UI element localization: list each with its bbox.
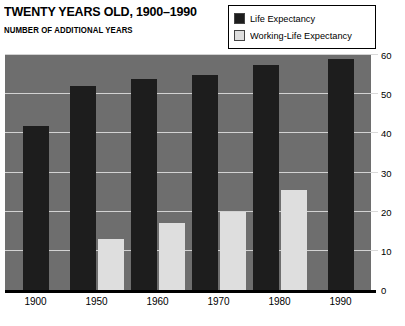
y-axis-tick — [371, 172, 378, 173]
title-block: TWENTY YEARS OLD, 1900–1990 NUMBER OF AD… — [4, 4, 205, 35]
chart-legend: Life Expectancy Working-Life Expectancy — [228, 5, 376, 49]
x-axis-label-1990: 1990 — [329, 296, 351, 307]
x-axis: 190019501960197019801990 — [5, 296, 371, 316]
y-axis-label: 60 — [381, 50, 392, 61]
chart-container: TWENTY YEARS OLD, 1900–1990 NUMBER OF AD… — [0, 0, 405, 326]
chart-subtitle: NUMBER OF ADDITIONAL YEARS — [4, 25, 189, 35]
bar-life-expectancy-1970 — [192, 75, 218, 290]
y-axis-tick — [371, 132, 378, 133]
bar-working-life-expectancy-1980 — [281, 190, 307, 290]
bar-working-life-expectancy-1970 — [220, 212, 246, 290]
y-axis-label: 20 — [381, 206, 392, 217]
x-axis-label-1960: 1960 — [146, 296, 168, 307]
legend-swatch-icon-life-expectancy — [234, 13, 245, 24]
bar-life-expectancy-1950 — [70, 86, 96, 290]
y-axis-label: 30 — [381, 167, 392, 178]
bar-life-expectancy-1900 — [23, 126, 49, 291]
legend-swatch-icon-working-life-expectancy — [234, 30, 245, 41]
y-axis-tick — [371, 250, 378, 251]
x-axis-label-1970: 1970 — [207, 296, 229, 307]
y-axis-label: 0 — [381, 285, 386, 296]
bar-working-life-expectancy-1960 — [159, 223, 185, 290]
y-axis-tick — [371, 93, 378, 94]
legend-label-working-life-expectancy: Working-Life Expectancy — [250, 30, 352, 41]
x-axis-baseline — [5, 290, 376, 293]
bar-life-expectancy-1990 — [328, 59, 354, 290]
legend-label-life-expectancy: Life Expectancy — [250, 13, 315, 24]
x-axis-label-1950: 1950 — [85, 296, 107, 307]
x-axis-label-1980: 1980 — [268, 296, 290, 307]
y-axis: 0102030405060 — [371, 55, 405, 290]
y-axis-tick — [371, 54, 378, 55]
y-axis-tick — [371, 211, 378, 212]
x-axis-label-1900: 1900 — [24, 296, 46, 307]
bar-life-expectancy-1960 — [131, 79, 157, 291]
legend-item-life-expectancy: Life Expectancy — [234, 10, 370, 27]
bar-working-life-expectancy-1950 — [98, 239, 124, 290]
bars-layer — [5, 55, 371, 290]
y-axis-label: 40 — [381, 128, 392, 139]
page-title: TWENTY YEARS OLD, 1900–1990 — [4, 4, 197, 19]
plot-area — [5, 55, 371, 290]
y-axis-label: 10 — [381, 245, 392, 256]
y-axis-label: 50 — [381, 89, 392, 100]
legend-item-working-life-expectancy: Working-Life Expectancy — [234, 27, 370, 44]
bar-life-expectancy-1980 — [253, 65, 279, 290]
